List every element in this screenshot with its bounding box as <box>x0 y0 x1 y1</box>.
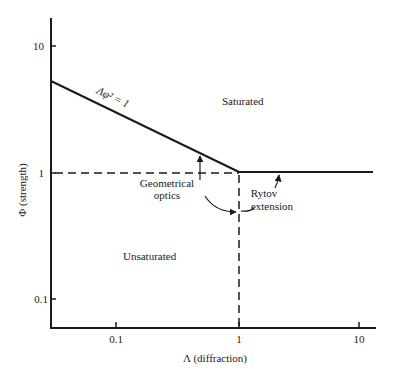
diagram-canvas: 10 1 0.1 0.1 1 10 Λ (diffraction) Φ (str… <box>0 0 396 371</box>
geometrical-optics-label-line2: optics <box>154 189 180 201</box>
y-tick-label-1: 1 <box>39 167 45 179</box>
rytov-extension-label-line2: extension <box>251 200 294 212</box>
saturated-label: Saturated <box>222 95 264 107</box>
y-axis-label: Φ (strength) <box>16 163 29 217</box>
rytov-extension-label-line1: Rytov <box>251 187 278 199</box>
x-axis-label: Λ (diffraction) <box>183 352 247 365</box>
curve-label: Λφ² = 1 <box>94 84 131 110</box>
unsaturated-label: Unsaturated <box>123 250 177 262</box>
x-tick-label-0.1: 0.1 <box>109 333 123 345</box>
y-tick-label-10: 10 <box>33 40 45 52</box>
y-tick-label-0.1: 0.1 <box>34 293 48 305</box>
geometrical-optics-arrow-curve <box>205 196 236 212</box>
x-tick-label-10: 10 <box>354 333 366 345</box>
x-tick-label-1: 1 <box>236 333 242 345</box>
sloped-boundary-line <box>51 81 239 172</box>
geometrical-optics-label-line1: Geometrical <box>140 177 194 189</box>
